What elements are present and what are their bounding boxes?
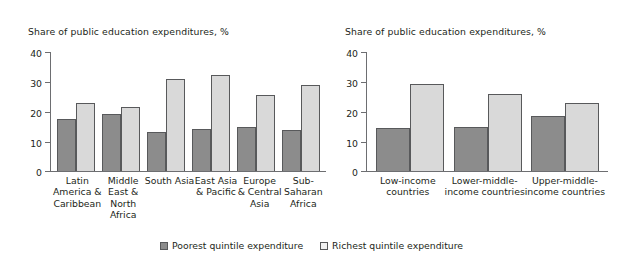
category-labels-left: LatinAmerica &CaribbeanMiddleEast &North… — [51, 175, 327, 221]
category-labels-right: Low-incomecountriesLower-middle-income c… — [367, 175, 609, 198]
y-tick-20-left: 20 — [45, 112, 50, 113]
legend-swatch-poorest-icon — [160, 242, 168, 250]
y-tick-30-right: 30 — [361, 82, 366, 83]
bar — [237, 127, 256, 171]
y-tick-label-10-right: 10 — [346, 137, 358, 148]
y-tick-0-right: 0 — [361, 171, 366, 172]
y-tick-label-30-right: 30 — [346, 77, 358, 88]
bar-group — [98, 52, 143, 171]
y-tick-label-10-left: 10 — [30, 137, 42, 148]
category-label: Low-incomecountries — [371, 175, 445, 198]
bar — [454, 127, 488, 171]
y-tick-label-40-left: 40 — [30, 47, 42, 58]
plot-area-left: 40 30 20 10 0 — [50, 52, 326, 172]
bar-group — [189, 52, 234, 171]
bar-group — [53, 52, 98, 171]
bar — [76, 103, 95, 171]
bar-group — [143, 52, 188, 171]
y-tick-label-30-left: 30 — [30, 77, 42, 88]
y-tick-label-0-right: 0 — [352, 166, 358, 177]
bar-groups-left — [51, 52, 326, 171]
bar-groups-right — [367, 52, 608, 171]
bar-group — [526, 52, 604, 171]
x-axis-left — [50, 171, 326, 172]
panel-title-left: Share of public education expenditures, … — [28, 26, 229, 37]
bar — [192, 129, 211, 171]
bar-group — [449, 52, 527, 171]
x-axis-right — [366, 171, 608, 172]
bar — [102, 114, 121, 171]
bar — [166, 79, 185, 171]
category-label: MiddleEast &NorthAfrica — [102, 175, 145, 221]
category-label: Europe& CentralAsia — [238, 175, 282, 221]
bar — [282, 130, 301, 171]
y-tick-30-left: 30 — [45, 82, 50, 83]
y-tick-label-0-left: 0 — [36, 166, 42, 177]
legend-label-poorest: Poorest quintile expenditure — [172, 240, 303, 251]
chart-panel-regions: Share of public education expenditures, … — [6, 0, 326, 235]
plot-area-right: 40 30 20 10 0 — [366, 52, 608, 172]
bar — [488, 94, 522, 171]
bar — [376, 128, 410, 171]
chart-panel-income-groups: Share of public education expenditures, … — [332, 0, 617, 235]
bar — [57, 119, 76, 172]
y-tick-20-right: 20 — [361, 112, 366, 113]
legend-label-richest: Richest quintile expenditure — [332, 240, 463, 251]
category-label: East Asia& Pacific — [194, 175, 237, 221]
legend-item-poorest: Poorest quintile expenditure — [160, 240, 303, 251]
bar-group — [234, 52, 279, 171]
chart-panels: Share of public education expenditures, … — [0, 0, 623, 235]
bar — [121, 107, 140, 172]
legend: Poorest quintile expenditure Richest qui… — [0, 240, 623, 251]
y-tick-0-left: 0 — [45, 171, 50, 172]
bar-group — [279, 52, 324, 171]
bar — [211, 75, 230, 171]
bar — [147, 132, 166, 171]
y-tick-10-left: 10 — [45, 142, 50, 143]
category-label: Sub-SaharanAfrica — [282, 175, 325, 221]
category-label: South Asia — [145, 175, 194, 221]
bar — [410, 84, 444, 171]
y-tick-40-right: 40 — [361, 52, 366, 53]
bar — [301, 85, 320, 171]
legend-swatch-richest-icon — [320, 242, 328, 250]
category-label: Upper-middle-income countries — [525, 175, 605, 198]
bar-group — [371, 52, 449, 171]
y-tick-label-20-right: 20 — [346, 107, 358, 118]
panel-title-right: Share of public education expenditures, … — [345, 26, 546, 37]
y-tick-40-left: 40 — [45, 52, 50, 53]
category-label: Lower-middle-income countries — [445, 175, 525, 198]
bar — [565, 103, 599, 171]
bar — [256, 95, 275, 172]
figure: Share of public education expenditures, … — [0, 0, 623, 279]
y-tick-10-right: 10 — [361, 142, 366, 143]
bar — [531, 116, 565, 171]
legend-item-richest: Richest quintile expenditure — [320, 240, 463, 251]
category-label: LatinAmerica &Caribbean — [53, 175, 102, 221]
y-tick-label-40-right: 40 — [346, 47, 358, 58]
y-tick-label-20-left: 20 — [30, 107, 42, 118]
